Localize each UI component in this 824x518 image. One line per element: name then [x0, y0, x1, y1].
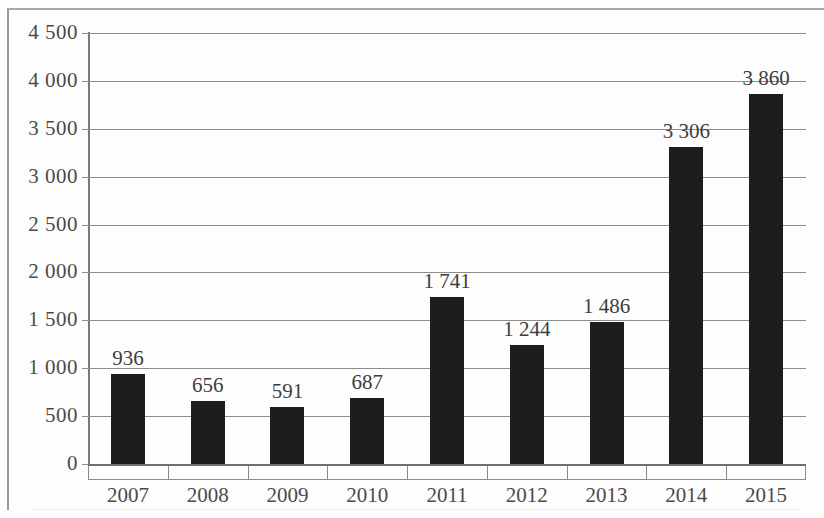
- bar-value-label: 1 244: [481, 319, 573, 340]
- bar: [350, 398, 384, 464]
- x-axis-tick-label: 2008: [168, 484, 248, 506]
- x-axis-tick-label: 2013: [567, 484, 647, 506]
- y-axis-tick-label: 4 500: [28, 22, 78, 43]
- plot-area: [88, 33, 806, 464]
- bar: [111, 374, 145, 464]
- gridline: [88, 464, 806, 466]
- bar-chart-figure: 05001 0001 5002 0002 5003 0003 5004 0004…: [0, 0, 824, 518]
- bar-value-label: 687: [321, 372, 413, 393]
- y-axis-tick-label: 2 000: [28, 261, 78, 282]
- bar-value-label: 1 486: [561, 296, 653, 317]
- x-axis-tick-mark: [646, 466, 647, 479]
- gridline: [88, 81, 806, 82]
- x-axis-tick-label: 2015: [726, 484, 806, 506]
- x-axis-tick-label: 2007: [88, 484, 168, 506]
- y-axis-tick-label: 4 000: [28, 70, 78, 91]
- y-axis-tick-label: 3 500: [28, 118, 78, 139]
- y-axis-tick-label: 1 000: [28, 357, 78, 378]
- bar: [590, 322, 624, 464]
- bar: [510, 345, 544, 464]
- bar: [270, 407, 304, 464]
- x-axis-tick-mark: [567, 466, 568, 479]
- bar-value-label: 1 741: [401, 271, 493, 292]
- x-axis-secondary-line: [88, 479, 806, 480]
- x-axis-tick-mark: [168, 466, 169, 479]
- bar: [669, 147, 703, 464]
- x-axis-left-cap: [88, 466, 89, 480]
- bar: [430, 297, 464, 464]
- bar-value-label: 936: [82, 348, 174, 369]
- y-axis-tick-label: 500: [45, 405, 78, 426]
- x-axis-tick-label: 2011: [407, 484, 487, 506]
- y-axis-tick-label: 1 500: [28, 309, 78, 330]
- y-axis-tick-label: 2 500: [28, 214, 78, 235]
- bar-value-label: 3 860: [720, 68, 812, 89]
- x-axis-tick-mark: [726, 466, 727, 479]
- x-axis-tick-label: 2009: [247, 484, 327, 506]
- y-axis-tick-label: 3 000: [28, 166, 78, 187]
- x-axis-tick-label: 2010: [327, 484, 407, 506]
- y-axis-tick-label: 0: [67, 453, 78, 474]
- bar-value-label: 591: [241, 381, 333, 402]
- x-axis-tick-mark: [248, 466, 249, 479]
- bar-value-label: 3 306: [640, 121, 732, 142]
- bar: [749, 94, 783, 464]
- bar: [191, 401, 225, 464]
- scan-artifact-line: [30, 509, 800, 510]
- bar-value-label: 656: [162, 375, 254, 396]
- x-axis-tick-label: 2012: [487, 484, 567, 506]
- x-axis-right-cap: [805, 466, 806, 480]
- gridline: [88, 33, 806, 34]
- x-axis-tick-mark: [487, 466, 488, 479]
- x-axis-tick-mark: [327, 466, 328, 479]
- x-axis-tick-label: 2014: [646, 484, 726, 506]
- x-axis-tick-mark: [407, 466, 408, 479]
